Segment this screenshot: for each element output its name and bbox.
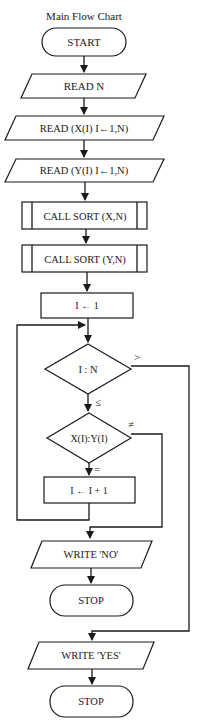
write-no-io: WRITE 'NO' [31,541,152,568]
increment-i-process: I ← I + 1 [44,477,135,503]
call-sort-y-label: CALL SORT (Y,N) [44,254,126,266]
read-n-io: READ N [21,74,146,98]
start-terminal: START [42,28,126,56]
compare-xy-decision: X(I):Y(I) [47,413,131,463]
read-y-io: READ (Y(I) I←1,N) [5,159,164,182]
flowchart-canvas: Main Flow Chart START READ N READ (X(I) … [0,0,202,727]
init-i-label: I ← 1 [75,300,98,311]
edge-label-greater: > [134,351,140,363]
stop-terminal-2: STOP [50,686,133,717]
stop-1-label: STOP [78,595,104,606]
edge-label-not-equal: ≠ [128,419,134,430]
compare-i-n-decision: I : N [45,344,131,394]
write-no-label: WRITE 'NO' [64,549,119,560]
call-sort-x-subroutine: CALL SORT (X,N) [22,202,147,229]
init-i-process: I ← 1 [41,293,133,318]
increment-i-label: I ← I + 1 [70,485,107,496]
stop-2-label: STOP [78,696,104,707]
chart-title: Main Flow Chart [46,10,122,22]
read-y-label: READ (Y(I) I←1,N) [40,165,129,177]
call-sort-x-label: CALL SORT (X,N) [43,211,127,223]
edge-label-equal: = [94,464,100,475]
compare-i-n-label: I : N [78,364,98,375]
stop-terminal-1: STOP [50,585,133,616]
read-n-label: READ N [64,80,105,92]
compare-xy-label: X(I):Y(I) [70,433,107,445]
start-label: START [67,36,101,48]
edge-label-less-equal: ≤ [95,396,101,408]
write-yes-label: WRITE 'YES' [61,650,121,661]
read-x-io: READ (X(I) I←1,N) [5,116,164,140]
write-yes-io: WRITE 'YES' [28,642,154,669]
call-sort-y-subroutine: CALL SORT (Y,N) [22,245,147,272]
read-x-label: READ (X(I) I←1,N) [40,123,129,135]
